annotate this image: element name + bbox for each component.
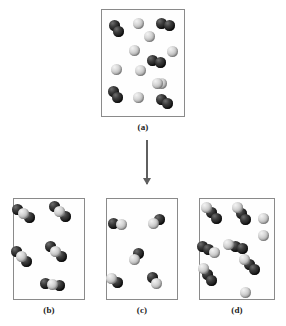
dark-atom	[211, 213, 222, 224]
panel-contents	[200, 199, 274, 299]
light-atom	[239, 254, 250, 265]
light-atom	[144, 31, 155, 42]
triatomic-light-dark-dark	[206, 207, 207, 208]
triatomic-light-dark-dark	[244, 259, 245, 260]
reaction-arrow	[142, 140, 152, 184]
dark-diatomic	[151, 56, 152, 57]
panel-caption-b: (b)	[13, 305, 85, 315]
light-atom	[133, 18, 144, 29]
light-atom	[258, 230, 269, 241]
dark-atom	[162, 98, 173, 109]
panel-caption-a: (a)	[101, 122, 185, 132]
light-atom	[116, 219, 127, 230]
panel-caption-d: (d)	[199, 305, 275, 315]
diatomic-dark-light	[112, 218, 113, 219]
diatomic-dark-light	[131, 251, 132, 252]
light-atom	[258, 213, 269, 224]
dark-atom	[164, 20, 175, 31]
light-atom	[209, 247, 220, 258]
light-atom	[111, 64, 122, 75]
diatomic-dark-light	[151, 216, 152, 217]
triatomic-light-dark-dark	[202, 269, 203, 270]
panel-contents	[102, 10, 184, 116]
panel-c	[106, 198, 178, 300]
light-atom	[135, 65, 146, 76]
panel-b	[13, 198, 85, 300]
dark-atom	[112, 92, 123, 103]
figure-canvas: (a)(b)(c)(d)	[0, 0, 286, 326]
arrow-head-icon	[143, 178, 151, 185]
dark-atom	[206, 275, 217, 286]
triatomic-dark-light-dark	[50, 246, 51, 247]
triatomic-dark-light-dark	[18, 208, 19, 209]
diatomic-dark-light	[149, 275, 150, 276]
dark-atom	[113, 26, 124, 37]
triatomic-dark-light-dark	[54, 206, 55, 207]
light-atom	[50, 246, 61, 257]
light-atom	[129, 254, 140, 265]
light-atom	[151, 278, 162, 289]
light-atom	[18, 208, 29, 219]
light-atom	[133, 92, 144, 103]
light-atom	[148, 218, 159, 229]
triatomic-light-dark-dark	[230, 241, 231, 242]
light-atom	[16, 251, 27, 262]
light-atom	[201, 202, 212, 213]
dark-diatomic	[110, 89, 111, 90]
panel-caption-c: (c)	[106, 305, 178, 315]
light-atom	[240, 287, 251, 298]
light-atom	[152, 78, 163, 89]
light-atom	[167, 46, 178, 57]
light-atom	[47, 279, 58, 290]
light-atom	[223, 239, 234, 250]
dark-atom	[155, 57, 166, 68]
light-atom	[106, 273, 117, 284]
triatomic-light-dark-dark	[236, 208, 237, 209]
panel-d	[199, 198, 275, 300]
light-atom	[129, 45, 140, 56]
dark-atom	[237, 243, 248, 254]
triatomic-dark-light-dark	[16, 251, 17, 252]
dark-atom	[240, 214, 251, 225]
light-atom	[54, 206, 65, 217]
panel-contents	[14, 199, 84, 299]
dark-diatomic	[160, 19, 161, 20]
triatomic-light-dark-dark	[203, 244, 204, 245]
light-atom	[198, 263, 209, 274]
light-atom	[232, 202, 243, 213]
diatomic-dark-light	[109, 275, 110, 276]
panel-contents	[107, 199, 177, 299]
dark-diatomic	[159, 96, 160, 97]
dark-diatomic	[111, 23, 112, 24]
panel-a	[101, 9, 185, 117]
triatomic-dark-light-dark	[47, 279, 48, 280]
dark-atom	[249, 264, 260, 275]
